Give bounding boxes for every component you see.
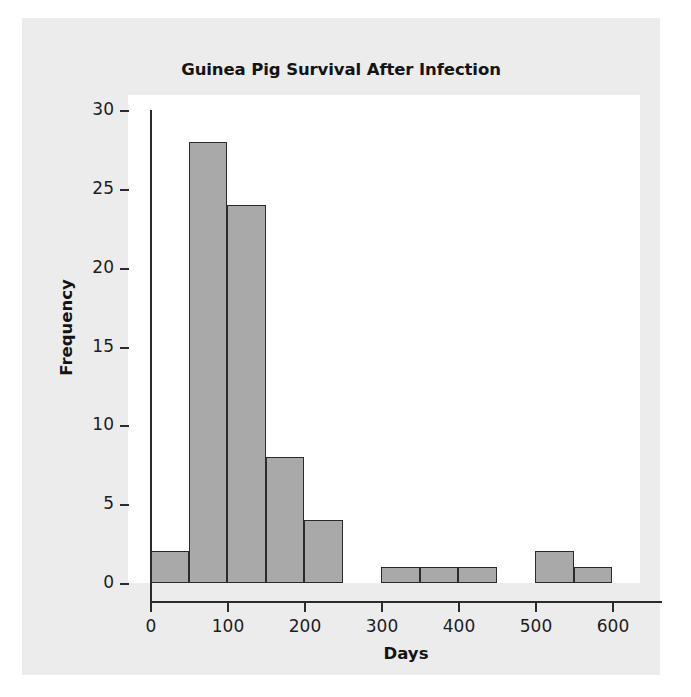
histogram-bar (535, 551, 574, 583)
y-tick-mark (120, 504, 129, 506)
y-tick-label: 5 (68, 493, 114, 513)
histogram-bar (574, 567, 613, 583)
x-axis-title: Days (150, 644, 662, 663)
x-tick-mark (304, 602, 306, 612)
x-tick-label: 600 (583, 616, 643, 636)
chart-title: Guinea Pig Survival After Infection (22, 60, 660, 79)
x-tick-mark (458, 602, 460, 612)
histogram-bar (381, 567, 420, 583)
x-tick-label: 400 (429, 616, 489, 636)
histogram-bar (458, 567, 497, 583)
y-tick-label: 25 (68, 178, 114, 198)
histogram-bar (227, 205, 266, 583)
y-tick-mark (120, 425, 129, 427)
y-tick-label: 30 (68, 99, 114, 119)
y-tick-mark (120, 189, 129, 191)
x-tick-mark (381, 602, 383, 612)
x-tick-mark (612, 602, 614, 612)
y-tick-mark (120, 268, 129, 270)
histogram-bar (304, 520, 343, 583)
histogram-bar (420, 567, 459, 583)
y-axis-line (150, 110, 152, 603)
histogram-bar (189, 142, 228, 583)
histogram-bar (266, 457, 305, 583)
x-tick-label: 500 (506, 616, 566, 636)
histogram-bar (150, 551, 189, 583)
y-tick-mark (120, 347, 129, 349)
x-tick-label: 300 (352, 616, 412, 636)
x-tick-label: 200 (275, 616, 335, 636)
y-tick-mark (120, 110, 129, 112)
x-tick-mark (535, 602, 537, 612)
x-tick-mark (227, 602, 229, 612)
y-tick-label: 0 (68, 572, 114, 592)
y-axis-title: Frequency (57, 228, 76, 428)
chart-figure: Guinea Pig Survival After Infection 0510… (22, 18, 660, 675)
y-tick-mark (120, 583, 129, 585)
x-tick-label: 0 (121, 616, 181, 636)
x-tick-label: 100 (198, 616, 258, 636)
x-tick-mark (150, 602, 152, 612)
